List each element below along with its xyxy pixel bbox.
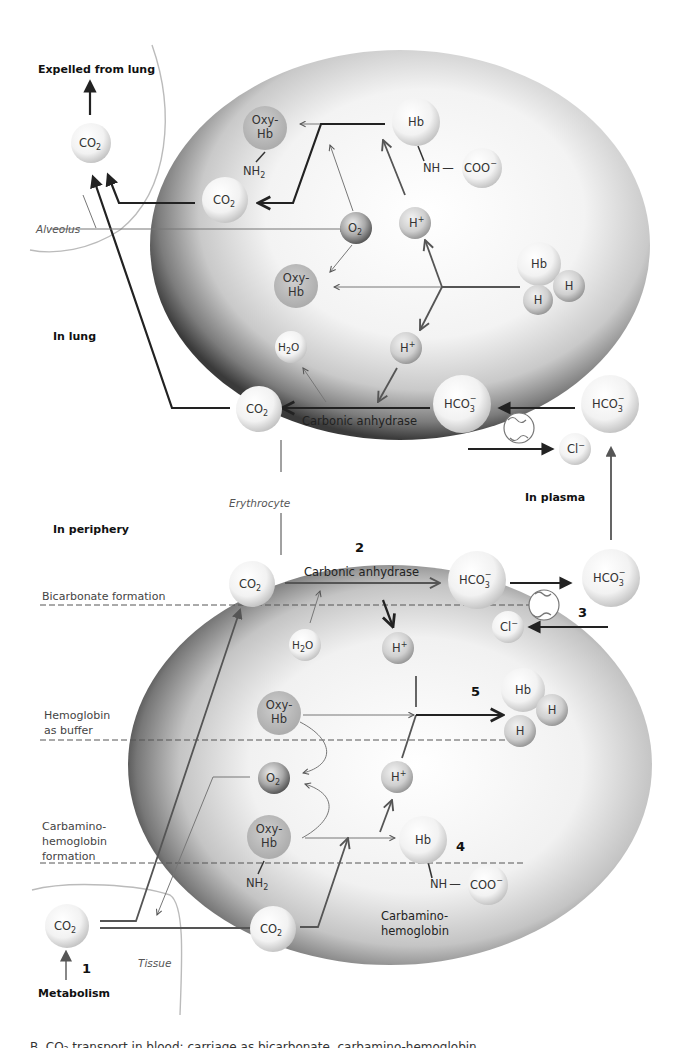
svg-text:Hb: Hb bbox=[415, 833, 431, 847]
svg-text:H: H bbox=[534, 293, 543, 307]
label-enzyme-lung: Carbonic anhydrase bbox=[302, 414, 417, 428]
label-nh-coo-bottom: NH— bbox=[430, 877, 461, 891]
label-carbamino-hemoglobin-2: hemoglobin bbox=[381, 924, 449, 938]
molecule-co2-cell-bottom: CO2 bbox=[229, 561, 275, 607]
molecule-hplus-bottom-lower: H+ bbox=[381, 761, 413, 793]
molecule-co2-tissue: CO2 bbox=[45, 904, 89, 948]
svg-text:H: H bbox=[565, 279, 574, 293]
molecule-co2-upper: CO2 bbox=[202, 177, 248, 223]
svg-text:Hb: Hb bbox=[261, 836, 277, 850]
label-tissue: Tissue bbox=[138, 957, 171, 969]
svg-text:Oxy-: Oxy- bbox=[283, 271, 310, 285]
molecule-hb-top: Hb bbox=[392, 98, 440, 146]
svg-text:H: H bbox=[548, 703, 557, 717]
label-zone-bicarbonate: Bicarbonate formation bbox=[42, 590, 165, 603]
label-metabolism: Metabolism bbox=[38, 987, 110, 1000]
molecule-oxyhb-top: Oxy- Hb bbox=[243, 106, 287, 150]
molecule-hplus-lower-top: H+ bbox=[390, 332, 422, 364]
molecule-hb-carbamino: Hb bbox=[399, 816, 447, 864]
molecule-co2-expelled: CO2 bbox=[71, 123, 111, 163]
molecule-hco3-plasma-bottom: HCO3− bbox=[582, 549, 640, 607]
svg-text:Hb: Hb bbox=[531, 257, 547, 271]
molecule-coo-bottom: COO− bbox=[468, 865, 508, 905]
anion-exchanger-periphery bbox=[529, 590, 559, 620]
svg-text:Hb: Hb bbox=[288, 285, 304, 299]
svg-text:Hb: Hb bbox=[257, 127, 273, 141]
step-number-1: 1 bbox=[82, 961, 91, 976]
molecule-cl-bottom: Cl− bbox=[492, 611, 524, 643]
svg-text:Hb: Hb bbox=[515, 683, 531, 697]
svg-text:Oxy-: Oxy- bbox=[266, 698, 293, 712]
molecule-h2o-top: H2O bbox=[275, 331, 307, 363]
svg-text:Oxy-: Oxy- bbox=[256, 822, 283, 836]
molecule-hplus-top: H+ bbox=[399, 207, 431, 239]
label-carbamino-hemoglobin-1: Carbamino- bbox=[381, 909, 448, 923]
label-expelled-from-lung: Expelled from lung bbox=[38, 63, 155, 76]
molecule-co2-cell-lower: CO2 bbox=[250, 906, 296, 952]
label-nh-coo-top: NH— bbox=[423, 161, 454, 175]
label-zone-carbamino-1: Carbamino- bbox=[42, 820, 106, 833]
molecule-cl-top: Cl− bbox=[559, 433, 591, 465]
label-in-plasma: In plasma bbox=[525, 491, 585, 504]
step-number-4: 4 bbox=[456, 839, 465, 854]
step-number-3: 3 bbox=[578, 605, 587, 620]
step-number-5: 5 bbox=[471, 684, 480, 699]
label-zone-carbamino-2: hemoglobin bbox=[42, 835, 107, 848]
molecule-h2o-bottom: H2O bbox=[289, 629, 321, 661]
svg-text:Oxy-: Oxy- bbox=[252, 113, 279, 127]
molecule-o2-top: O2 bbox=[340, 212, 372, 244]
molecule-o2-bottom: O2 bbox=[258, 762, 290, 794]
molecule-oxyhb-bottom-lower: Oxy- Hb bbox=[247, 815, 291, 859]
figure-caption-cut-off: B. CO₂ transport in blood: carriage as b… bbox=[30, 1036, 650, 1048]
label-alveolus: Alveolus bbox=[35, 223, 81, 235]
svg-text:Hb: Hb bbox=[408, 115, 424, 129]
label-in-lung: In lung bbox=[53, 330, 96, 343]
label-zone-hb-buffer-2: as buffer bbox=[44, 724, 93, 737]
molecule-hco3-cell-bottom: HCO3− bbox=[448, 551, 506, 609]
label-enzyme-periphery: Carbonic anhydrase bbox=[304, 565, 419, 579]
step-number-2: 2 bbox=[355, 540, 364, 555]
svg-text:Hb: Hb bbox=[271, 712, 287, 726]
label-in-periphery: In periphery bbox=[53, 523, 129, 536]
molecule-hplus-bottom-upper: H+ bbox=[382, 632, 414, 664]
label-zone-hb-buffer-1: Hemoglobin bbox=[44, 709, 110, 722]
label-erythrocyte: Erythrocyte bbox=[229, 497, 290, 509]
label-zone-carbamino-3: formation bbox=[42, 850, 95, 863]
anion-exchanger-lung bbox=[504, 413, 534, 443]
molecule-hco3-cell-top: HCO3− bbox=[433, 375, 491, 433]
molecule-co2-lung: CO2 bbox=[236, 386, 282, 432]
molecule-coo-top: COO− bbox=[462, 148, 502, 188]
alveolus-pointer bbox=[83, 195, 96, 228]
molecule-hco3-plasma-top: HCO3− bbox=[581, 375, 639, 433]
molecule-oxyhb-bottom-upper: Oxy- Hb bbox=[257, 691, 301, 735]
molecule-oxyhb-mid: Oxy- Hb bbox=[274, 264, 318, 308]
svg-text:H: H bbox=[516, 724, 525, 738]
